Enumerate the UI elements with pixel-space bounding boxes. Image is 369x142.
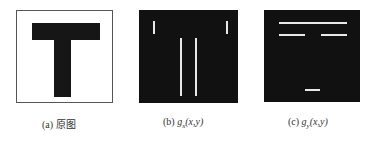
edge-line bbox=[226, 21, 228, 34]
edge-line bbox=[305, 89, 320, 91]
edge-line bbox=[195, 38, 197, 96]
caption-c: (c) gy(x,y) bbox=[288, 116, 328, 130]
t-shape-top-bar bbox=[32, 23, 100, 40]
caption-c-args: (x,y) bbox=[310, 116, 328, 127]
edge-line bbox=[279, 22, 347, 24]
caption-c-label: (c) bbox=[288, 116, 299, 127]
caption-b-label: (b) bbox=[163, 116, 175, 127]
edge-line bbox=[153, 21, 155, 34]
edge-line bbox=[279, 34, 305, 36]
edge-line bbox=[180, 38, 182, 96]
caption-a-text: 原图 bbox=[56, 119, 76, 130]
caption-a: (a) 原图 bbox=[42, 116, 76, 131]
gradient-x-image bbox=[139, 10, 238, 103]
edge-line bbox=[321, 34, 347, 36]
caption-a-label: (a) bbox=[42, 119, 53, 130]
t-shape-stem bbox=[54, 40, 71, 97]
original-image bbox=[16, 10, 113, 103]
caption-b: (b) gx(x,y) bbox=[163, 116, 203, 130]
gradient-y-image bbox=[264, 10, 360, 102]
caption-b-args: (x,y) bbox=[185, 116, 203, 127]
